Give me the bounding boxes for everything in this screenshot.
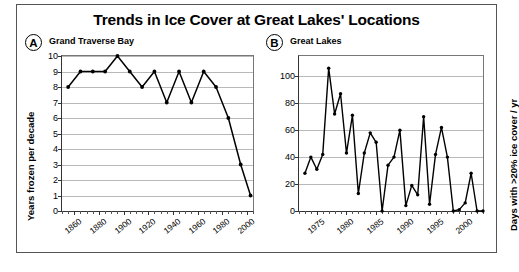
x-axis-minor-tick [216, 211, 217, 214]
panel-a-plot-area: 0123456789101860188019001920194019601980… [61, 55, 254, 212]
data-point [481, 209, 484, 212]
data-point [369, 131, 372, 134]
data-point [345, 151, 348, 154]
data-point [189, 101, 193, 105]
x-axis-minor-tick [68, 211, 69, 214]
data-point [374, 141, 377, 144]
y-axis-tick-label: 60 [285, 126, 295, 135]
x-axis-minor-tick [418, 211, 419, 214]
data-point [239, 163, 243, 167]
x-axis-minor-tick [424, 211, 425, 214]
x-axis-minor-tick [105, 211, 106, 214]
x-axis-tick-label: 1920 [137, 217, 157, 235]
data-point [165, 101, 169, 105]
x-axis-tick-label: 1975 [306, 217, 326, 235]
panel-grand-traverse-bay: A Grand Traverse Bay Years frozen per de… [19, 33, 262, 249]
x-axis-tick [346, 211, 347, 215]
y-axis-tick-label: 80 [285, 99, 295, 108]
x-axis-tick-label: 1860 [63, 217, 83, 235]
x-axis-tick-label: 1980 [211, 217, 231, 235]
x-axis-minor-tick [117, 211, 118, 214]
y-axis-tick-label: 5 [53, 129, 58, 138]
y-axis-tick-label: 8 [53, 83, 58, 92]
panel-a-title: Grand Traverse Bay [49, 36, 134, 46]
x-axis-tick-label: 1980 [336, 217, 356, 235]
data-point [333, 112, 336, 115]
x-axis-minor-tick [441, 211, 442, 214]
x-axis-minor-tick [341, 211, 342, 214]
data-point [103, 70, 107, 74]
y-axis-tick-label: 3 [53, 160, 58, 169]
data-point [66, 85, 70, 89]
data-point [386, 163, 389, 166]
figure-frame: Trends in Ice Cover at Great Lakes' Loca… [16, 4, 497, 253]
x-axis-minor-tick [130, 211, 131, 214]
data-point [410, 184, 413, 187]
x-axis-tick [436, 211, 437, 215]
x-axis-tick [99, 211, 100, 215]
y-axis-tick-label: 0 [53, 207, 58, 216]
x-axis-tick [198, 211, 199, 215]
panel-b-tag: B [266, 34, 283, 51]
x-axis-minor-tick [370, 211, 371, 214]
x-axis-minor-tick [388, 211, 389, 214]
y-axis-tick-label: 1 [53, 191, 58, 200]
y-axis-tick-label: 4 [53, 145, 58, 154]
data-point [434, 153, 437, 156]
x-axis-minor-tick [241, 211, 242, 214]
x-axis-tick [406, 211, 407, 215]
data-point [422, 115, 425, 118]
figure-title: Trends in Ice Cover at Great Lakes' Loca… [17, 11, 496, 29]
x-axis-tick [148, 211, 149, 215]
x-axis-tick [124, 211, 125, 215]
x-axis-minor-tick [87, 211, 88, 214]
data-point [226, 116, 230, 120]
data-point [404, 204, 407, 207]
x-axis-minor-tick [228, 211, 229, 214]
data-point [309, 155, 312, 158]
data-point [214, 85, 218, 89]
panel-b-plot-area: 020406080100197519801985199019952000 [298, 55, 484, 212]
x-axis-minor-tick [111, 211, 112, 214]
x-axis-minor-tick [358, 211, 359, 214]
panel-great-lakes: B Great Lakes Days with >20% ice cover /… [260, 33, 496, 249]
x-axis-minor-tick [142, 211, 143, 214]
x-axis-minor-tick [299, 211, 300, 214]
x-axis-minor-tick [352, 211, 353, 214]
x-axis-tick [74, 211, 75, 215]
x-axis-tick-label: 2000 [454, 217, 474, 235]
panel-b-y-axis-label: Days with >20% ice cover / yr [508, 99, 519, 231]
data-point [416, 193, 419, 196]
x-axis-minor-tick [154, 211, 155, 214]
y-axis-tick-label: 0 [290, 207, 295, 216]
x-axis-tick [376, 211, 377, 215]
x-axis-minor-tick [394, 211, 395, 214]
data-point [446, 155, 449, 158]
data-series [62, 56, 253, 211]
x-axis-minor-tick [305, 211, 306, 214]
y-axis-tick-label: 20 [285, 180, 295, 189]
x-axis-minor-tick [136, 211, 137, 214]
x-axis-minor-tick [459, 211, 460, 214]
x-axis-minor-tick [185, 211, 186, 214]
x-axis-minor-tick [62, 211, 63, 214]
data-point [321, 153, 324, 156]
panel-a-tag: A [25, 34, 42, 51]
y-axis-tick-label: 6 [53, 114, 58, 123]
x-axis-tick-label: 1940 [162, 217, 182, 235]
data-point [458, 208, 461, 211]
data-point [249, 194, 253, 198]
x-axis-tick [173, 211, 174, 215]
data-series [299, 56, 483, 211]
data-point [177, 70, 181, 74]
x-axis-minor-tick [167, 211, 168, 214]
x-axis-minor-tick [80, 211, 81, 214]
data-point [475, 209, 478, 212]
data-point [351, 114, 354, 117]
data-point [392, 155, 395, 158]
x-axis-minor-tick [323, 211, 324, 214]
data-point [428, 203, 431, 206]
x-axis-minor-tick [93, 211, 94, 214]
series-line [68, 56, 250, 196]
x-axis-minor-tick [412, 211, 413, 214]
